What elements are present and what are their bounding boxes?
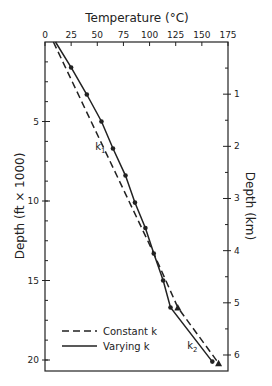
dot-marker <box>210 359 215 364</box>
right-y-tick-label: 1 <box>234 89 240 99</box>
right-y-tick-label: 3 <box>234 193 240 203</box>
x-tick-label: 150 <box>193 30 210 40</box>
right-y-axis-title: Depth (km) <box>243 172 257 240</box>
x-tick-label: 50 <box>92 30 104 40</box>
k1-label: k1 <box>95 141 105 155</box>
x-tick-label: 75 <box>118 30 129 40</box>
left-y-tick-label: 15 <box>28 276 39 286</box>
right-y-tick-label: 2 <box>234 141 240 151</box>
dot-marker <box>69 65 74 70</box>
x-axis-title: Temperature (°C) <box>84 11 189 25</box>
dot-marker <box>143 226 148 231</box>
dot-marker <box>111 146 116 151</box>
dot-marker <box>99 119 104 124</box>
right-y-axis-ticks: 123456 <box>223 68 240 360</box>
right-y-tick-label: 5 <box>234 298 240 308</box>
right-y-tick-label: 6 <box>234 350 240 360</box>
triangle-marker <box>174 304 181 311</box>
dot-marker <box>123 173 128 178</box>
left-y-tick-label: 10 <box>28 196 40 206</box>
x-tick-label: 0 <box>42 30 48 40</box>
legend-label-varying-k: Varying k <box>103 341 150 352</box>
dot-marker <box>85 92 90 97</box>
legend-label-constant-k: Constant k <box>103 326 157 337</box>
k2-label: k2 <box>187 340 197 354</box>
left-y-axis-ticks: 5101520 <box>28 62 50 365</box>
x-axis-ticks: 0255075100125150175 <box>42 30 236 46</box>
x-tick-label: 175 <box>219 30 236 40</box>
dot-marker <box>151 251 156 256</box>
left-y-axis-title: Depth (ft × 1000) <box>13 153 27 260</box>
legend: Constant k Varying k <box>62 326 157 352</box>
left-y-tick-label: 20 <box>28 355 40 365</box>
right-y-tick-label: 4 <box>234 246 240 256</box>
x-tick-label: 25 <box>65 30 76 40</box>
dot-marker <box>161 278 166 283</box>
left-y-tick-label: 5 <box>33 117 39 127</box>
temperature-depth-chart: Temperature (°C) 0255075100125150175 510… <box>0 0 272 386</box>
series-lines <box>53 42 222 366</box>
x-tick-label: 125 <box>167 30 184 40</box>
x-tick-label: 100 <box>141 30 158 40</box>
dot-marker <box>133 200 138 205</box>
dot-marker <box>168 305 173 310</box>
